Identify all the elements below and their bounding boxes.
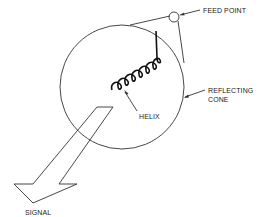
cone-edge-side	[178, 21, 184, 63]
reflecting-label-line2: CONE	[208, 96, 229, 103]
reflecting-cone-arrowhead	[184, 95, 189, 99]
antenna-diagram: FEED POINT REFLECTING CONE HELIX SIGNAL	[0, 0, 260, 217]
feed-point-bulb	[169, 12, 179, 22]
cone-edge-top	[130, 16, 170, 25]
signal-arrow	[14, 107, 113, 203]
helix-arrowhead	[124, 90, 129, 95]
reflecting-label-line1: REFLECTING	[208, 87, 253, 94]
signal-label: SIGNAL	[25, 209, 51, 216]
helix-coil	[112, 31, 161, 90]
feed-point-label: FEED POINT	[203, 7, 247, 14]
feed-point-arrowhead	[180, 13, 185, 16]
helix-leader	[125, 92, 137, 111]
helix-label: HELIX	[139, 113, 160, 120]
